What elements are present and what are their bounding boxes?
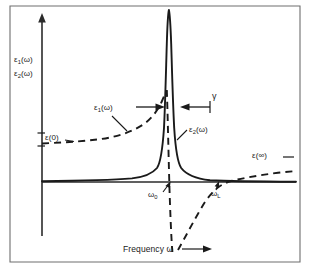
eps1-curve-low-branch xyxy=(42,91,167,144)
omega-zero-label: ω0 xyxy=(148,191,158,199)
eps2-label-leader xyxy=(177,130,187,140)
y-axis xyxy=(38,13,46,236)
y-axis-label-eps1: ε1(ω) xyxy=(14,56,33,64)
eps1-curve-resonance-drop xyxy=(167,90,173,252)
eps-zero-label: ε(0) xyxy=(45,134,59,142)
dielectric-function-figure: ε1(ω) ε2(ω) ε(0) ε1(ω) ε2(ω) ε(∞) γ ω0 ω… xyxy=(0,0,310,269)
eps1-curve-label: ε1(ω) xyxy=(94,104,113,112)
omega-l-label: ωL xyxy=(211,190,221,198)
x-axis-label: Frequency ω xyxy=(123,245,173,254)
eps1-label-leader xyxy=(112,116,127,131)
eps-infinity-label: ε(∞) xyxy=(252,152,267,160)
eps2-curve-label: ε2(ω) xyxy=(189,126,208,134)
eps1-curve-high-branch xyxy=(178,171,296,250)
y-axis-label-eps2: ε2(ω) xyxy=(14,70,33,78)
x-axis-arrow xyxy=(182,246,212,253)
gamma-label: γ xyxy=(212,92,217,101)
